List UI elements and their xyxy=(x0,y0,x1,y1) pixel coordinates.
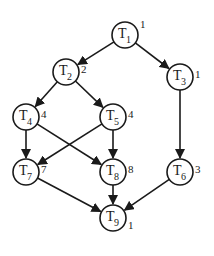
edge-t1-t3 xyxy=(135,43,169,69)
node-weight: 3 xyxy=(195,163,201,175)
node-weight: 7 xyxy=(41,163,47,175)
node-subscript: 3 xyxy=(181,76,186,87)
node-weight: 2 xyxy=(81,63,87,75)
node-weight: 1 xyxy=(140,18,146,30)
node-t3: T31 xyxy=(167,64,201,90)
node-t1: T11 xyxy=(112,18,146,48)
edge-t2-t4 xyxy=(35,82,57,107)
edge-t2-t5 xyxy=(75,81,102,107)
node-weight: 1 xyxy=(195,68,201,80)
node-weight: 4 xyxy=(128,108,134,120)
node-subscript: 8 xyxy=(114,171,119,182)
node-subscript: 5 xyxy=(114,116,119,127)
node-t6: T63 xyxy=(167,159,201,185)
node-t2: T22 xyxy=(53,59,87,85)
node-subscript: 2 xyxy=(67,71,72,82)
node-subscript: 1 xyxy=(126,34,131,45)
node-t9: T91 xyxy=(100,205,134,231)
node-subscript: 4 xyxy=(27,116,32,127)
node-weight: 4 xyxy=(41,108,47,120)
node-t4: T44 xyxy=(13,104,47,130)
node-t8: T88 xyxy=(100,159,134,185)
nodes: T11T22T31T44T54T63T77T88T91 xyxy=(13,18,201,231)
edge-t6-t9 xyxy=(125,179,170,210)
node-weight: 8 xyxy=(128,163,134,175)
node-subscript: 9 xyxy=(114,217,119,228)
node-t5: T54 xyxy=(100,104,134,130)
node-subscript: 7 xyxy=(27,171,32,182)
node-subscript: 6 xyxy=(181,171,186,182)
edge-t1-t2 xyxy=(78,42,114,65)
node-weight: 1 xyxy=(128,219,134,231)
edge-t7-t9 xyxy=(37,178,100,211)
task-graph: T11T22T31T44T54T63T77T88T91 xyxy=(0,0,214,256)
edges xyxy=(26,42,180,212)
